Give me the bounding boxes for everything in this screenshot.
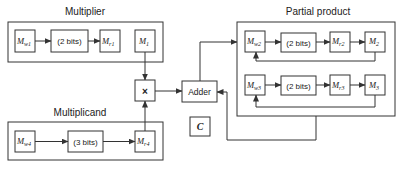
row1-bits-label: (2 bits) — [286, 39, 311, 48]
multiply-icon: × — [142, 86, 148, 97]
row2-bits-label: (2 bits) — [286, 82, 311, 91]
multiplicand-group: Multiplicand Mw4 (3 bits) Mr4 — [8, 107, 163, 160]
multiplicand-label: Multiplicand — [54, 107, 107, 118]
multiplier-group: Multiplier Mw1 (2 bits) Mr1 M1 — [8, 6, 163, 62]
partial-product-label: Partial product — [286, 6, 351, 17]
adder-label: Adder — [188, 87, 211, 97]
multiplier-bits-label: (2 bits) — [57, 37, 82, 46]
multiplicand-bits-label: (3 bits) — [73, 138, 98, 147]
partial-product-group: Partial product Mw2 (2 bits) Mr2 M2 Mw3 … — [237, 6, 395, 116]
carry-label: C — [197, 121, 204, 132]
multiplier-label: Multiplier — [65, 6, 106, 17]
arrow-adder-to-partial-product — [200, 42, 237, 81]
